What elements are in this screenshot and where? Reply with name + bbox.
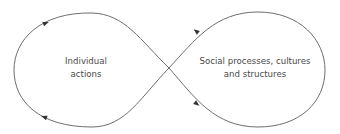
left-label-line-2: actions: [56, 68, 116, 81]
right-label-line-2: and structures: [196, 68, 314, 81]
social-processes-label: Social processes, cultures and structure…: [196, 55, 314, 80]
arrow-left-bottom-icon: [40, 114, 47, 121]
left-label-line-1: Individual: [56, 55, 116, 68]
individual-actions-label: Individual actions: [56, 55, 116, 80]
arrow-right-top-icon: [192, 27, 200, 34]
feedback-loop-diagram: Individual actions Social processes, cul…: [0, 0, 340, 134]
right-label-line-1: Social processes, cultures: [196, 55, 314, 68]
